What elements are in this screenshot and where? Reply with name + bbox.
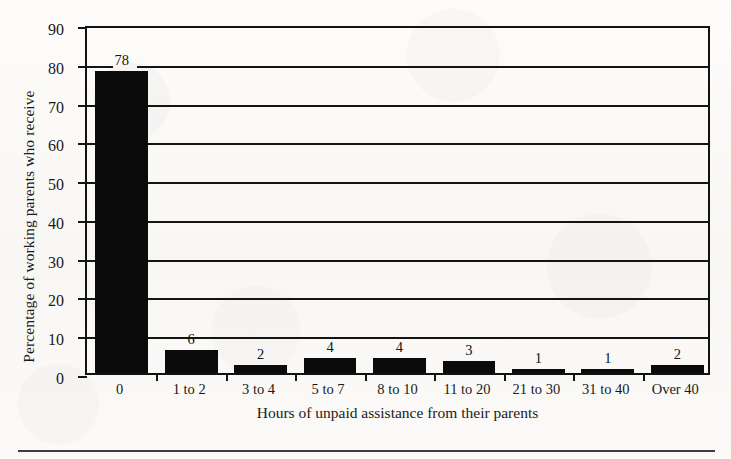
x-axis-category-label: 8 to 10 — [377, 381, 417, 398]
bar-value-label: 2 — [257, 346, 264, 363]
gridline — [87, 260, 708, 262]
bar: 4 — [373, 358, 426, 374]
y-axis-tick-label: 70 — [48, 99, 64, 117]
y-axis-tick: 90 — [78, 27, 87, 29]
gridline — [87, 221, 708, 223]
bar-chart-figure: Percentage of working parents who receiv… — [0, 0, 731, 459]
x-axis-tick — [226, 373, 228, 381]
y-axis-tick: 20 — [78, 298, 87, 300]
x-axis-tick — [434, 373, 436, 381]
y-axis-tick-label: 80 — [48, 60, 64, 78]
bar: 2 — [651, 365, 704, 373]
y-axis-title: Percentage of working parents who receiv… — [16, 52, 42, 401]
x-axis-tick — [295, 373, 297, 381]
bar-value-label: 2 — [674, 346, 681, 363]
y-axis-tick: 0 — [78, 376, 87, 378]
gridline — [87, 143, 708, 145]
x-axis-category-label: 5 to 7 — [312, 381, 345, 398]
x-axis-tick — [643, 373, 645, 381]
y-axis-tick: 10 — [78, 337, 87, 339]
y-axis-tick: 70 — [78, 105, 87, 107]
bar-value-label: 4 — [396, 339, 403, 356]
bottom-horizontal-rule — [18, 450, 715, 452]
y-axis-tick: 60 — [78, 143, 87, 145]
x-axis-tick — [573, 373, 575, 381]
bar-value-label: 1 — [604, 350, 611, 367]
y-axis-tick-label: 0 — [56, 370, 64, 388]
bar-value-label: 3 — [465, 342, 472, 359]
y-axis-tick-label: 30 — [48, 254, 64, 272]
x-axis-title: Hours of unpaid assistance from their pa… — [85, 404, 710, 422]
x-axis-category-label: 1 to 2 — [173, 381, 206, 398]
y-axis-tick: 50 — [78, 182, 87, 184]
y-axis-tick-label: 20 — [48, 292, 64, 310]
x-axis-tick — [504, 373, 506, 381]
bar: 4 — [304, 358, 357, 374]
bar: 2 — [234, 365, 287, 373]
y-axis-tick: 80 — [78, 66, 87, 68]
y-axis-tick-label: 90 — [48, 21, 64, 39]
bar: 3 — [443, 361, 496, 373]
bar-value-label: 6 — [188, 331, 195, 348]
y-axis-tick-label: 40 — [48, 215, 64, 233]
y-axis-tick: 30 — [78, 260, 87, 262]
bar: 78 — [95, 71, 148, 373]
bar-value-label: 1 — [535, 350, 542, 367]
gridline — [87, 105, 708, 107]
bar: 1 — [512, 369, 565, 373]
y-axis-tick: 40 — [78, 221, 87, 223]
bar: 1 — [581, 369, 634, 373]
x-axis-category-label: 0 — [116, 381, 123, 398]
x-axis-category-label: 11 to 20 — [443, 381, 490, 398]
x-axis-category-label: 21 to 30 — [513, 381, 561, 398]
x-axis-tick — [156, 373, 158, 381]
gridline — [87, 182, 708, 184]
gridline — [87, 66, 708, 68]
plot-area: 0102030405060708090 7862443112 — [85, 26, 710, 375]
x-axis-category-label: Over 40 — [652, 381, 699, 398]
bar-value-label: 4 — [326, 339, 333, 356]
x-axis-category-label: 3 to 4 — [242, 381, 275, 398]
y-axis-tick-label: 10 — [48, 331, 64, 349]
bar-value-label: 78 — [114, 52, 129, 69]
gridline — [87, 298, 708, 300]
x-axis-category-label: 31 to 40 — [582, 381, 630, 398]
x-axis-tick — [365, 373, 367, 381]
bar: 6 — [165, 350, 218, 373]
y-axis-tick-label: 50 — [48, 176, 64, 194]
y-axis-tick-label: 60 — [48, 137, 64, 155]
